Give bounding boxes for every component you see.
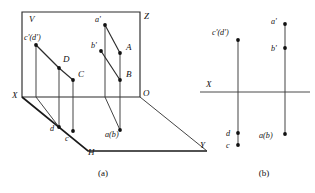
point-ab-a	[118, 128, 122, 132]
panel-a: V Z X O H Y c'(d') a' b' D C A B d c a(b…	[11, 11, 207, 178]
point-c-b	[236, 143, 240, 147]
point-ab-b	[283, 132, 287, 136]
label-d-b: d	[226, 129, 231, 138]
label-O: O	[143, 88, 150, 98]
label-A-a: A	[125, 42, 132, 52]
label-C-a: C	[78, 69, 85, 79]
point-cd-prime-a	[34, 43, 38, 47]
point-c-a	[71, 129, 75, 133]
point-C-a	[71, 78, 75, 82]
label-X-a: X	[11, 90, 18, 100]
link-cdprime-to-D	[36, 45, 59, 68]
label-V: V	[29, 14, 36, 24]
figure-container: V Z X O H Y c'(d') a' b' D C A B d c a(b…	[0, 0, 315, 193]
label-b-prime-a: b'	[91, 41, 97, 50]
label-a-prime-a: a'	[95, 15, 101, 24]
label-D-a: D	[62, 54, 70, 64]
caption-panel-a: (a)	[98, 168, 108, 178]
link-aprime-to-A	[105, 25, 120, 53]
label-X-b: X	[205, 79, 212, 89]
point-b-prime-b	[283, 46, 287, 50]
point-d-a	[57, 125, 61, 129]
projector-foldline-to-ab	[105, 97, 120, 130]
label-Y: Y	[200, 140, 206, 150]
point-cd-prime-b	[236, 38, 240, 42]
label-a-b-a: a(b)	[105, 130, 119, 139]
point-d-b	[236, 131, 240, 135]
point-A-a	[118, 51, 122, 55]
h-plane-right-edge	[140, 97, 207, 151]
link-bprime-to-B	[101, 51, 120, 80]
link-D-to-C	[59, 68, 73, 80]
point-D-a	[57, 66, 61, 70]
v-plane-rectangle	[22, 12, 140, 97]
point-b-prime-a	[99, 49, 103, 53]
point-B-a	[118, 78, 122, 82]
point-a-prime-b	[283, 22, 287, 26]
label-B-a: B	[126, 69, 132, 79]
caption-panel-b: (b)	[259, 168, 270, 178]
label-c-prime-d-prime-a: c'(d')	[24, 33, 41, 42]
label-c-a: c	[65, 134, 69, 143]
label-d-a: d	[50, 124, 55, 133]
label-H: H	[87, 147, 95, 157]
label-b-prime-b: b'	[271, 44, 277, 53]
point-a-prime-a	[103, 23, 107, 27]
label-c-prime-d-prime-b: c'(d')	[212, 28, 229, 37]
projection-figure: V Z X O H Y c'(d') a' b' D C A B d c a(b…	[0, 0, 315, 193]
panel-b: X c'(d') a' b' d c a(b) (b)	[200, 17, 310, 178]
label-c-b: c	[226, 141, 230, 150]
label-a-b-b: a(b)	[259, 131, 273, 140]
label-Z: Z	[144, 11, 150, 21]
label-a-prime-b: a'	[271, 17, 277, 26]
